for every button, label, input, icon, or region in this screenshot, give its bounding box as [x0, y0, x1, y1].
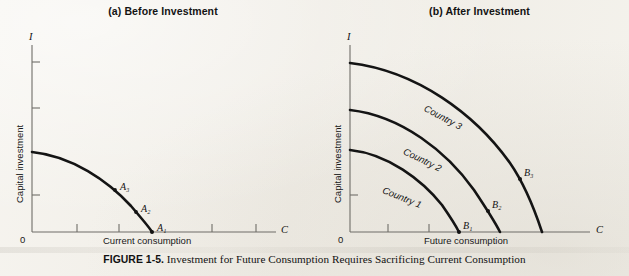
- panel-a-point-a3: [113, 188, 117, 192]
- panel-b-label-b2: B₂: [492, 199, 502, 210]
- panel-b-svg: [318, 0, 629, 250]
- panel-b-x-axis-mark: C: [596, 224, 603, 235]
- panel-a-point-a2: [134, 210, 138, 214]
- panel-a-x-axis-mark: C: [281, 224, 288, 235]
- panel-b-plot-area: [318, 0, 629, 250]
- panel-after-investment: (b) After Investment: [318, 0, 629, 250]
- panel-b-curve-country-2: [350, 110, 500, 232]
- panel-b-y-axis-label: Capital investment: [332, 125, 343, 203]
- panel-b-curve-country-3: [350, 63, 542, 232]
- panel-before-investment: (a) Before Investment: [0, 0, 318, 250]
- panel-a-label-a1: A₁: [157, 222, 167, 233]
- panel-a-y-axis-mark: I: [29, 31, 33, 42]
- panel-b-y-axis-mark: I: [347, 31, 351, 42]
- panel-b-label-b3: B₃: [524, 167, 534, 178]
- panel-b-point-b3: [518, 177, 522, 181]
- panel-a-y-axis-label: Capital investment: [14, 125, 25, 203]
- panel-b-point-b1: [457, 230, 461, 234]
- panel-b-point-b2: [486, 209, 490, 213]
- panel-b-origin-label: 0: [338, 234, 343, 245]
- panel-a-x-axis-label: Current consumption: [103, 235, 191, 246]
- panel-a-label-a2: A₂: [141, 203, 151, 214]
- panel-a-svg: [0, 0, 318, 250]
- panel-a-point-a1: [150, 230, 154, 234]
- panel-a-label-a3: A₃: [120, 181, 130, 192]
- panel-a-plot-area: [0, 0, 318, 250]
- panel-a-ppf-curve: [32, 152, 152, 232]
- panel-b-label-b1: B₁: [463, 220, 473, 231]
- figure-caption: FIGURE 1-5. Investment for Future Consum…: [0, 253, 629, 265]
- figure-caption-text: Investment for Future Consumption Requir…: [167, 253, 526, 265]
- panel-a-origin-label: 0: [20, 234, 25, 245]
- figure-container: (a) Before Investment: [0, 0, 629, 276]
- panel-b-x-axis-label: Future consumption: [424, 235, 508, 246]
- figure-caption-label: FIGURE 1-5.: [103, 254, 164, 265]
